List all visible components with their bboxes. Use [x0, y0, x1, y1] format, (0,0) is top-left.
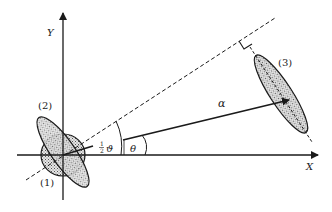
- ellipse-3-label: (3): [278, 57, 292, 68]
- vartheta-symbol: ϑ: [106, 143, 113, 154]
- alpha-label: α: [218, 97, 226, 110]
- half-fraction-denominator: 2: [100, 147, 104, 154]
- y-axis-label: Y: [47, 27, 55, 38]
- x-axis-label: X: [305, 161, 314, 172]
- ellipse-1-label: (1): [40, 177, 54, 188]
- ellipse-2-label: (2): [38, 100, 52, 111]
- theta-arc: [142, 135, 146, 155]
- half-vartheta-arc: [116, 121, 122, 155]
- theta-label: θ: [130, 143, 136, 154]
- alpha-vector-arrow: [123, 100, 289, 140]
- half-fraction-numerator: 1: [100, 140, 104, 147]
- diagram-canvas: Y X (2) (1) (3) α 1 2 ϑ θ: [0, 0, 332, 212]
